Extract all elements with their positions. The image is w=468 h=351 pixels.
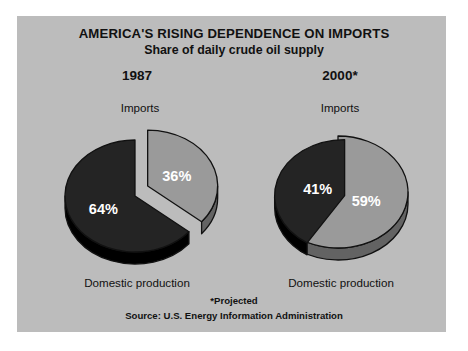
chart-title: AMERICA'S RISING DEPENDENCE ON IMPORTS [79, 27, 390, 40]
chart-footnote: *Projected [210, 296, 257, 306]
left-chart-domestic-label: Domestic production [84, 277, 190, 289]
chart-source: Source: U.S. Energy Information Administ… [125, 311, 343, 321]
left-chart-imports-label: Imports [121, 102, 160, 114]
left-chart-year: 1987 [122, 69, 152, 83]
right-chart-domestic-label: Domestic production [288, 277, 394, 289]
right-chart-year: 2000* [322, 69, 357, 83]
right-chart-imports-label: Imports [321, 102, 360, 114]
chart-subtitle: Share of daily crude oil supply [144, 44, 324, 56]
chart-figure: AMERICA'S RISING DEPENDENCE ON IMPORTS S… [0, 0, 468, 351]
